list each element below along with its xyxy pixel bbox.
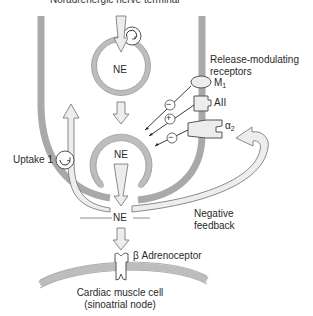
vesicle-transfer-arrow: [113, 102, 129, 124]
aii-receptor: [194, 96, 211, 111]
label-aii: AII: [214, 97, 226, 109]
aii-sign: +: [166, 112, 171, 124]
label-ne-cleft: NE: [113, 212, 127, 224]
ne-to-receptor-arrow: [113, 228, 129, 250]
label-uptake1: Uptake 1: [13, 154, 53, 166]
label-cardiac-cell: Cardiac muscle cell (sinoatrial node): [70, 287, 170, 311]
label-release-modulating: Release-modulating receptors: [210, 54, 299, 78]
alpha2-sign: −: [168, 131, 173, 143]
label-ne-vesicle-fusing: NE: [114, 149, 128, 161]
alpha2-receptor: [188, 120, 222, 138]
release-arrow: [114, 164, 128, 206]
label-m1: M1: [214, 77, 226, 92]
label-alpha2: α2: [225, 120, 235, 135]
label-negative-feedback: Negative feedback: [194, 208, 235, 232]
label-beta-adrenoceptor: β Adrenoceptor: [133, 250, 202, 262]
uptake1-transporter-icon: [56, 151, 74, 169]
m1-sign: −: [166, 98, 171, 110]
diagram-title: Noradrenergic nerve terminal: [50, 0, 180, 5]
label-ne-vesicle-top: NE: [113, 64, 127, 76]
beta-adrenoceptor: [115, 253, 128, 280]
m1-receptor: [191, 76, 211, 88]
